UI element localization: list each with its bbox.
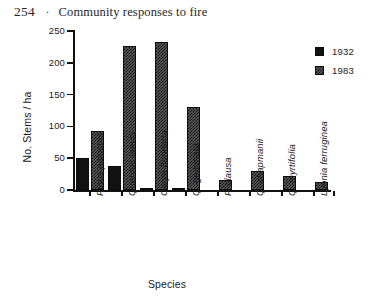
y-axis-tick [67,30,73,32]
x-axis-tick [313,191,315,196]
legend-label-1932: 1932 [332,46,354,57]
x-axis-tick [89,191,91,196]
bar-chart-figure: No. Stems / ha 050100150200250 Pinus pal… [0,24,383,300]
x-axis-label-3: Carya floridana [158,130,169,196]
y-axis-tick-label: 100 [25,121,65,131]
legend-label-1983: 1983 [332,65,354,76]
bar-1932-1 [76,158,90,190]
y-axis-tick-label: 50 [25,153,65,163]
y-axis-tick-label: 0 [25,185,65,195]
x-axis-tick [281,191,283,196]
page-running-head: 254 · Community responses to fire [14,4,374,22]
bar-1932-3 [140,188,154,190]
x-axis-tick-end [333,191,335,196]
x-axis-tick [185,191,187,196]
bar-1932-2 [108,166,122,190]
y-axis-tick-label: 250 [25,26,65,36]
chart-legend: 19321983 [315,44,379,82]
y-axis-tick [67,157,73,159]
x-axis-label-2: Quercus laevis [126,132,137,196]
running-title: Community responses to fire [59,5,208,20]
x-axis-label-4: Q. geminata [190,143,201,196]
y-axis-tick [67,94,73,96]
y-axis-tick [67,126,73,128]
x-axis-label-8: Lyonia ferruginea [318,121,329,196]
legend-swatch-1932 [315,47,324,56]
x-axis-title: Species [148,278,186,290]
y-axis-tick [67,62,73,64]
y-axis-tick-label: 150 [25,90,65,100]
legend-item-1983: 1983 [315,63,379,77]
x-axis-tick [153,191,155,196]
legend-swatch-1983 [315,66,324,75]
header-separator: · [45,4,49,20]
bar-1932-4 [172,188,186,190]
x-axis-label-6: Q. chapmanii [254,139,265,196]
y-axis-tick-label: 200 [25,58,65,68]
x-axis-tick [249,191,251,196]
x-axis-label-5: P. clausa [222,157,233,196]
x-axis-label-7: Q. myrtifolia [286,144,297,196]
x-axis-tick [121,191,123,196]
x-axis-tick [217,191,219,196]
y-axis-tick [67,189,73,191]
legend-item-1932: 1932 [315,44,379,58]
x-axis-label-1: Pinus palustris [94,133,105,196]
page-number: 254 [14,4,35,20]
